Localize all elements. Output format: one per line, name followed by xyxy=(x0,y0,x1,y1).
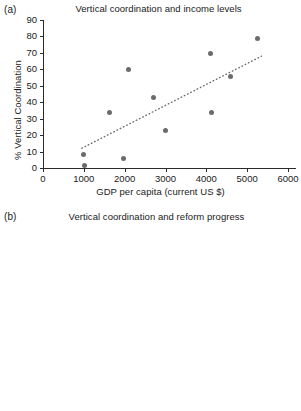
data-point-a xyxy=(163,128,168,133)
x-tick-a xyxy=(84,169,85,172)
y-tick-label-a: 20 xyxy=(11,130,37,140)
x-tick-a xyxy=(288,169,289,172)
data-point-a xyxy=(151,95,156,100)
x-tick-a xyxy=(125,169,126,172)
x-axis-label-a: GDP per capita (current US $) xyxy=(0,186,301,198)
x-tick-a xyxy=(166,169,167,172)
x-tick-label-a: 2000 xyxy=(105,174,145,184)
chart-panel-a: (a) Vertical coordination and income lev… xyxy=(0,0,301,205)
y-tick-label-a: 10 xyxy=(11,147,37,157)
y-tick-label-a: 60 xyxy=(11,64,37,74)
x-tick-label-a: 1000 xyxy=(64,174,104,184)
y-tick-label-a: 0 xyxy=(11,163,37,173)
x-tick-label-a: 3000 xyxy=(146,174,186,184)
y-tick-label-a: 90 xyxy=(11,15,37,25)
x-tick-a xyxy=(43,169,44,172)
y-axis-label-a: % Vertical Coordination xyxy=(12,60,23,160)
y-tick-label-a: 40 xyxy=(11,97,37,107)
x-tick-a xyxy=(206,169,207,172)
x-tick-label-a: 4000 xyxy=(186,174,226,184)
trendline-a xyxy=(43,20,288,168)
plot-area-a: 0102030405060708090010002000300040005000… xyxy=(43,20,288,168)
x-tick-label-a: 6000 xyxy=(268,174,301,184)
y-tick-label-a: 80 xyxy=(11,31,37,41)
y-tick-label-a: 70 xyxy=(11,48,37,58)
x-tick-a xyxy=(247,169,248,172)
x-tick-label-a: 0 xyxy=(23,174,63,184)
y-tick-label-a: 30 xyxy=(11,114,37,124)
x-axis-line-a xyxy=(43,168,296,169)
chart-title-a: Vertical coordination and income levels xyxy=(0,3,301,15)
chart-title-b: Vertical coordination and reform progres… xyxy=(0,211,301,223)
y-tick-label-a: 50 xyxy=(11,81,37,91)
chart-panel-b: (b) Vertical coordination and reform pro… xyxy=(0,205,301,411)
x-tick-label-a: 5000 xyxy=(227,174,267,184)
